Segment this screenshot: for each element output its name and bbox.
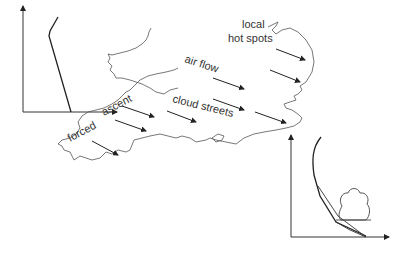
arrow-airflow-1 (213, 78, 244, 89)
arrow-airflow-3 (255, 112, 286, 123)
east-coast (268, 22, 314, 128)
north-coast (108, 28, 178, 94)
label-air-flow: air flow (183, 52, 220, 74)
left-temperature-curve (49, 17, 71, 112)
label-local: local (242, 18, 265, 30)
arrow-cloudstreets-1 (167, 111, 196, 122)
right-dry-adiabat (318, 186, 366, 237)
arrow-hotspot-2 (270, 70, 300, 82)
right-temperature-curve (313, 137, 366, 236)
label-hot-spots: hot spots (228, 32, 273, 44)
left-profile-graph (23, 6, 117, 112)
label-ascent: ascent (99, 92, 133, 118)
south-coast (58, 128, 286, 160)
arrow-ascent-1 (122, 106, 154, 117)
label-cloud-streets: cloud streets (172, 92, 236, 119)
label-forced: forced (65, 119, 98, 144)
cumulus-cloud-icon (339, 189, 370, 221)
arrow-ascent-2 (115, 120, 146, 131)
labels: local hot spots air flow cloud streets a… (65, 18, 273, 144)
coastline-map (58, 22, 314, 160)
diagram-svg: local hot spots air flow cloud streets a… (0, 0, 401, 254)
diagram-canvas: local hot spots air flow cloud streets a… (0, 0, 401, 254)
right-profile-graph (291, 135, 389, 237)
arrow-hotspot-1 (276, 49, 305, 60)
